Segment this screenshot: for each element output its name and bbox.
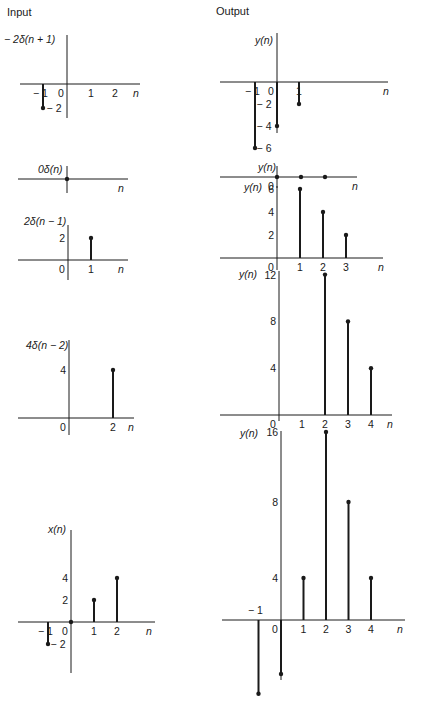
stem-dot (297, 102, 301, 106)
stem-dot (41, 106, 45, 110)
x-tick-label: 2 (320, 261, 326, 273)
stem-dot (369, 366, 373, 370)
x-tick-label: 1 (297, 261, 303, 273)
stem-dot (46, 642, 50, 646)
y-tick-label: 8 (270, 315, 276, 327)
stem-dot (323, 272, 327, 276)
stem-dot (324, 430, 328, 434)
y-axis-label: y(n) (238, 268, 257, 280)
y-axis-label: 4δ(n − 2) (26, 339, 68, 351)
x-tick-label: 1 (299, 418, 305, 430)
x-tick-label: 2 (114, 625, 120, 637)
y-axis-label: y(n) (239, 427, 258, 439)
stem-dot (275, 124, 279, 128)
y-tick-label: 2 (59, 232, 65, 244)
y-tick-label: − 6 (257, 142, 272, 154)
n-axis-label: n (146, 625, 152, 637)
y-tick-label: − 4 (257, 120, 272, 132)
y-axis-label: − 2δ(n + 1) (4, 33, 55, 45)
n-axis-label: n (397, 623, 403, 635)
stem-dot (253, 146, 257, 150)
x-tick-label: 4 (368, 418, 374, 430)
stem-dot (275, 175, 279, 179)
x-tick-label: − 1 (245, 85, 260, 97)
y-tick-label: 8 (272, 496, 278, 508)
y-tick-label: 6 (268, 183, 274, 195)
n-axis-label: n (128, 421, 134, 433)
stem-dot (344, 233, 348, 237)
y-tick-label: 4 (270, 362, 276, 374)
n-axis-label: n (118, 263, 124, 275)
x-tick-label: 2 (322, 418, 328, 430)
x-tick-label: 3 (346, 623, 352, 635)
stem-dot (279, 672, 283, 676)
x-tick-label: 0 (59, 263, 65, 275)
x-tick-label: − 1 (38, 625, 53, 637)
stem-plot-out-4: y(n)012341284n (220, 268, 393, 430)
y-axis-label: x(n) (47, 523, 66, 535)
x-tick-label: 0 (60, 421, 66, 433)
y-tick-label: 2 (268, 229, 274, 241)
stem-dot (301, 576, 305, 580)
n-axis-label: n (352, 180, 358, 192)
stem-dot (92, 598, 96, 602)
stem-plot-out-3: y(n)0123642n (220, 181, 384, 273)
stem-dot (256, 692, 260, 696)
x-tick-label: 0 (272, 623, 278, 635)
y-tick-label: 4 (62, 572, 68, 584)
n-axis-label: n (118, 182, 124, 194)
n-axis-label: n (133, 87, 139, 99)
y-tick-label: − 2 (51, 638, 66, 650)
stem-plot-in-2: 0δ(n)n (18, 163, 128, 194)
y-axis-label: 0δ(n) (38, 163, 63, 175)
stem-plot-in-5: x(n)− 101242− 2n (18, 523, 155, 673)
stem-dot (346, 500, 350, 504)
stem-dot (69, 620, 73, 624)
y-tick-label: − 2 (257, 98, 272, 110)
y-tick-label: 2 (62, 594, 68, 606)
stem-dot (346, 319, 350, 323)
x-tick-label: 1 (88, 87, 94, 99)
x-tick-label: 1 (91, 625, 97, 637)
stem-plot-in-4: 4δ(n − 2)024n (18, 339, 134, 435)
y-tick-label: 4 (268, 206, 274, 218)
stem-dot (111, 368, 115, 372)
y-tick-label: 16 (266, 426, 278, 438)
x-tick-label: 0 (58, 87, 64, 99)
stem-dot (89, 236, 93, 240)
stem-plots-figure: − 2δ(n + 1)− 1012− 2n0δ(n)n2δ(n − 1)012n… (0, 0, 422, 706)
stem-plot-in-1: − 2δ(n + 1)− 1012− 2n (4, 33, 140, 118)
x-tick-label: − 1 (33, 87, 48, 99)
stem-plot-out-2: y(n)0n (220, 161, 358, 192)
n-axis-label: n (378, 261, 384, 273)
x-tick-label: 2 (323, 623, 329, 635)
x-tick-label: 2 (110, 421, 116, 433)
x-tick-label: 1 (88, 263, 94, 275)
x-tick-label: 0 (62, 625, 68, 637)
stem-dot (298, 187, 302, 191)
x-tick-label: 3 (343, 261, 349, 273)
y-axis-label: y(n) (243, 181, 262, 193)
y-tick-label: 4 (60, 364, 66, 376)
y-axis-label: y(n) (257, 161, 276, 173)
y-tick-label: − 2 (47, 102, 62, 114)
n-axis-label: n (383, 85, 389, 97)
stem-dot (369, 576, 373, 580)
stem-plot-out-5: y(n)012341684− 1n (222, 426, 405, 696)
x-tick-label: 0 (268, 85, 274, 97)
stem-dot (65, 177, 69, 181)
stem-dot (115, 576, 119, 580)
n-axis-label: n (387, 418, 393, 430)
x-tick-label: 2 (112, 87, 118, 99)
stem-dot (299, 175, 303, 179)
y-tick-label: 12 (264, 269, 276, 281)
stem-value-label: − 1 (248, 604, 263, 616)
y-axis-label: 2δ(n − 1) (23, 215, 66, 227)
x-tick-label: 3 (345, 418, 351, 430)
y-tick-label: 4 (272, 572, 278, 584)
stem-dot (321, 210, 325, 214)
y-axis-label: y(n) (254, 34, 273, 46)
stem-plot-out-1: y(n)− 101− 2− 4− 6n (220, 33, 389, 154)
x-tick-label: 4 (368, 623, 374, 635)
x-tick-label: 1 (301, 623, 307, 635)
